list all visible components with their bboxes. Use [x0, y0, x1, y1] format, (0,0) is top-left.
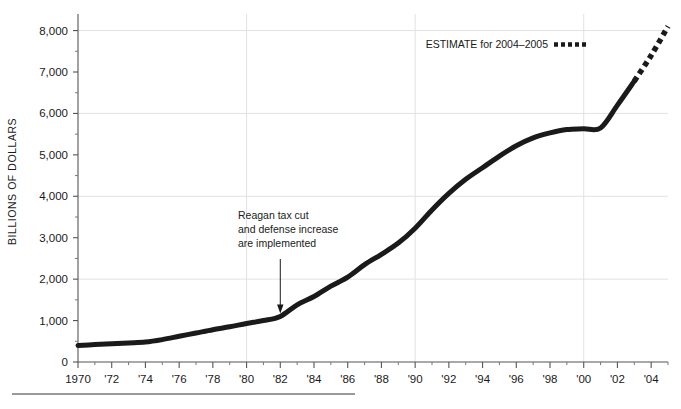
annotation-line: Reagan tax cut [238, 209, 309, 221]
y-tick-label: 6,000 [39, 107, 68, 119]
x-tick-label: '82 [273, 373, 288, 385]
x-tick-label: '98 [543, 373, 558, 385]
x-tick-label: '90 [408, 373, 423, 385]
y-tick-label: 2,000 [39, 273, 68, 285]
x-tick-label: '92 [441, 373, 456, 385]
y-tick-label: 7,000 [39, 66, 68, 78]
y-tick-label: 4,000 [39, 190, 68, 202]
x-tick-label: '74 [138, 373, 154, 385]
x-tick-label: '02 [610, 373, 625, 385]
x-tick-label: '88 [374, 373, 389, 385]
y-tick-label: 5,000 [39, 149, 68, 161]
x-tick-label: '78 [205, 373, 220, 385]
x-tick-label: '84 [307, 373, 323, 385]
x-tick-label: '80 [239, 373, 254, 385]
actual-line [78, 81, 634, 345]
x-tick-label: 1970 [65, 373, 91, 385]
y-tick-label: 1,000 [39, 315, 68, 327]
y-tick-label: 0 [62, 356, 68, 368]
x-tick-label: '96 [509, 373, 524, 385]
annotation-line: and defense increase [238, 223, 339, 235]
y-tick-label: 3,000 [39, 232, 68, 244]
line-chart: 01,0002,0003,0004,0005,0006,0007,0008,00… [0, 0, 681, 409]
x-tick-label: '00 [576, 373, 591, 385]
y-tick-label: 8,000 [39, 25, 68, 37]
x-tick-label: '86 [340, 373, 355, 385]
x-tick-label: '04 [644, 373, 660, 385]
y-axis-title: BILLIONS OF DOLLARS [6, 118, 18, 245]
estimate-line [634, 26, 668, 81]
x-tick-label: '76 [172, 373, 187, 385]
legend-label: ESTIMATE for 2004–2005 [426, 38, 549, 50]
x-tick-label: '72 [104, 373, 119, 385]
chart-figure: 01,0002,0003,0004,0005,0006,0007,0008,00… [0, 0, 681, 409]
x-tick-label: '94 [475, 373, 491, 385]
annotation-arrow-head [277, 304, 283, 313]
annotation-line: are implemented [238, 237, 316, 249]
